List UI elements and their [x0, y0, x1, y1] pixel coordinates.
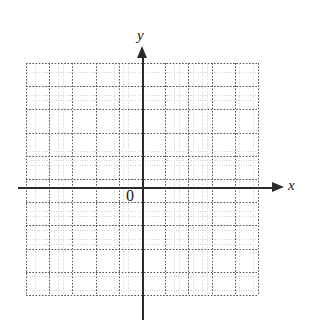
arrow-right-icon: [272, 182, 284, 192]
origin-label: 0: [126, 188, 134, 204]
gridline-vertical: [258, 63, 259, 295]
x-axis-line: [18, 187, 276, 189]
y-axis-label: y: [137, 28, 144, 43]
coordinate-plane-figure: y x 0: [0, 0, 310, 330]
x-axis-label: x: [288, 178, 295, 193]
y-axis-line: [142, 56, 144, 320]
arrow-up-icon: [137, 46, 147, 58]
